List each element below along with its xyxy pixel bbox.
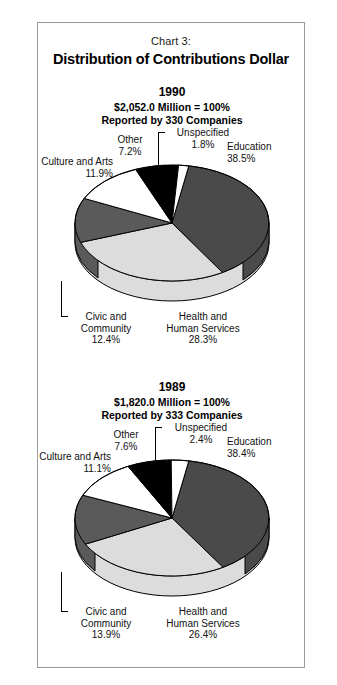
panel-amount-1989: $1,820.0 Million = 100% [38,396,306,408]
pie-panel-1989: 1989 $1,820.0 Million = 100% Reported by… [38,380,306,655]
pie-label-unspecified-1989: Unspecified 2.4% [155,422,247,445]
label-value: 12.4% [92,334,120,345]
pie-top-face-1990 [75,165,269,281]
chart-figure: Chart 3: Distribution of Contributions D… [37,22,305,668]
label-value: 2.4% [190,434,213,445]
pie-label-other-1990: Other 7.2% [95,134,165,157]
label-text: Civic and [85,311,126,322]
pie-label-hhs-1990: Health and Human Services 28.3% [148,311,258,346]
label-text: Health and [179,606,227,617]
leader-civic-1990-h [61,316,68,317]
pie-label-culture-1989: Culture and Arts 11.1% [6,451,111,474]
label-text2: Human Services [166,323,239,334]
label-text2: Community [81,618,132,629]
label-text: Other [113,429,138,440]
label-value: 13.9% [92,629,120,640]
label-value: 7.2% [119,146,142,157]
pie-top-face-1989 [75,460,269,576]
panel-year-1989: 1989 [38,380,306,394]
panel-companies-1990: Reported by 330 Companies [38,114,306,126]
label-value: 7.6% [115,441,138,452]
label-text: Culture and Arts [39,451,111,462]
label-text2: Human Services [166,618,239,629]
pie-label-civic-1990: Civic and Community 12.4% [61,311,151,346]
label-value: 11.1% [83,463,111,474]
label-value: 11.9% [85,168,113,179]
label-value: 38.4% [227,448,255,459]
page-title: Distribution of Contributions Dollar [38,51,304,67]
panel-year-1990: 1990 [38,85,306,99]
pie-label-civic-1989: Civic and Community 13.9% [61,606,151,641]
label-text: Health and [179,311,227,322]
pie-label-culture-1990: Culture and Arts 11.9% [8,156,113,179]
label-text: Unspecified [177,127,229,138]
panel-amount-1990: $2,052.0 Million = 100% [38,101,306,113]
leader-unspecified-1989-h [155,427,162,428]
label-value: 38.5% [227,153,255,164]
label-value: 26.4% [189,629,217,640]
label-text: Culture and Arts [41,156,113,167]
leader-civic-1990-v [61,281,62,316]
leader-unspecified-1990-h [158,132,165,133]
leader-civic-1989-h [61,611,68,612]
label-text: Civic and [85,606,126,617]
pie-label-unspecified-1990: Unspecified 1.8% [158,127,248,150]
label-text: Unspecified [175,422,227,433]
pie-label-hhs-1989: Health and Human Services 26.4% [148,606,258,641]
label-value: 1.8% [192,139,215,150]
pie-panel-1990: 1990 $2,052.0 Million = 100% Reported by… [38,85,306,360]
label-text2: Community [81,323,132,334]
label-value: 28.3% [189,334,217,345]
leader-civic-1989-v [61,572,62,611]
chart-number-label: Chart 3: [38,35,304,47]
pie-label-other-1989: Other 7.6% [91,429,161,452]
panel-companies-1989: Reported by 333 Companies [38,409,306,421]
label-text: Other [117,134,142,145]
